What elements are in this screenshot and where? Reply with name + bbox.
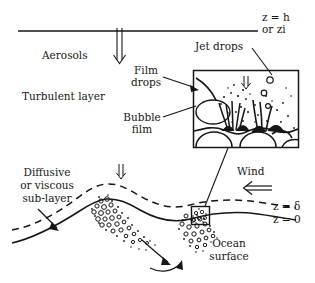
wind-label: Wind <box>237 166 264 178</box>
aerosols-down-arrow-icon <box>114 28 126 64</box>
sublayer-down-arrow-icon <box>117 164 126 179</box>
turbulent-layer-label: Turbulent layer <box>22 91 105 103</box>
jet-drops-label: Jet drops <box>195 41 243 53</box>
plume-recirculation-arrows <box>142 240 183 271</box>
diagram-vector-layer <box>0 0 315 283</box>
bubble-film-label-line2: film <box>116 124 168 136</box>
boundary-top-label-line2: or zi <box>262 24 286 36</box>
leader-inset-to-callout <box>205 148 228 206</box>
bubble-film-label-line1: Bubble <box>116 112 168 124</box>
film-drops-label-line2: drops <box>124 77 168 89</box>
ocean-surface-curve <box>12 199 296 243</box>
sublayer-label-line3: sub-layer <box>8 193 86 205</box>
bubble-plume-left <box>91 194 156 251</box>
boundary-top-label-line1: z = h <box>262 12 290 24</box>
aerosols-label: Aerosols <box>42 50 88 62</box>
z-delta-label: z = δ <box>273 201 300 213</box>
ocean-surface-label-line2: surface <box>203 251 255 263</box>
film-drops-label-line1: Film <box>124 65 168 77</box>
wind-left-arrow-icon <box>244 182 273 195</box>
recirc-arrow-up-right <box>150 264 180 271</box>
sublayer-label-line1: Diffusive <box>8 167 86 179</box>
z-zero-label: z = 0 <box>273 214 301 226</box>
ocean-surface-label-line1: Ocean <box>203 238 255 250</box>
diagram-canvas: z = h or zi Aerosols Turbulent layer Jet… <box>0 0 315 283</box>
sublayer-label-line2: or viscous <box>8 180 86 192</box>
